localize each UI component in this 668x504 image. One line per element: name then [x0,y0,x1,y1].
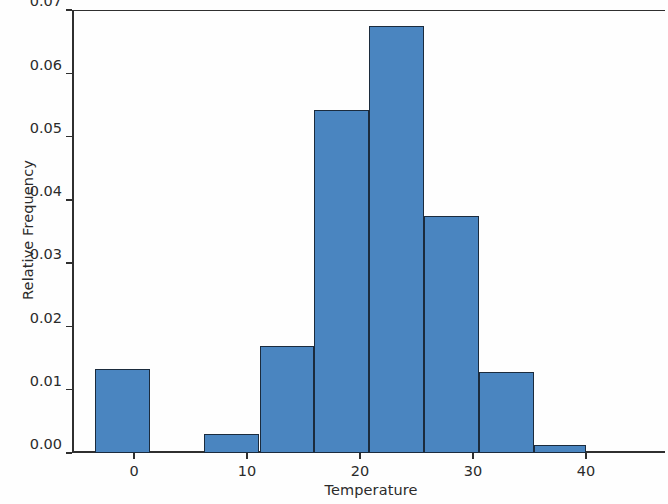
x-tick-label: 10 [238,463,256,479]
y-tick-label: 0.00 [30,436,62,452]
y-tick-label: 0.03 [30,246,62,262]
y-tick-mark [66,452,72,454]
y-tick-mark [66,9,72,11]
y-tick-mark [66,326,72,328]
histogram-bar [369,26,424,453]
histogram-bar [204,434,259,453]
y-tick-mark [66,73,72,75]
axis-spine-top [72,10,665,11]
y-tick-label: 0.06 [30,57,62,73]
x-tick-mark [585,453,587,459]
plot-area: 0.000.010.020.030.040.050.060.07 0102030… [72,10,665,453]
y-tick-mark [66,199,72,201]
histogram-figure: Relative Frequency 0.000.010.020.030.040… [0,0,668,504]
x-tick-label: 30 [464,463,482,479]
histogram-bar [260,346,314,453]
axis-spine-left [72,10,74,453]
histogram-bar [424,216,478,453]
y-tick-label: 0.02 [30,310,62,326]
histogram-bar [479,372,534,453]
histogram-bar [534,445,586,453]
y-tick-mark [66,389,72,391]
y-tick-mark [66,262,72,264]
x-axis-label: Temperature [145,482,597,498]
y-tick-label: 0.04 [30,183,62,199]
x-tick-label: 40 [577,463,595,479]
x-tick-label: 20 [351,463,369,479]
histogram-bar [314,110,369,453]
x-tick-mark [246,453,248,459]
y-tick-label: 0.07 [30,0,62,9]
y-tick-label: 0.01 [30,373,62,389]
x-tick-mark [359,453,361,459]
histogram-bar [95,369,150,453]
x-tick-label: 0 [129,463,138,479]
x-tick-mark [472,453,474,459]
y-tick-label: 0.05 [30,120,62,136]
x-tick-mark [133,453,135,459]
y-tick-mark [66,136,72,138]
